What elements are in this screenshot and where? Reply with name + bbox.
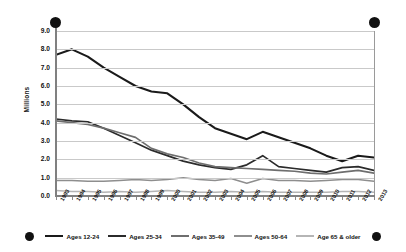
legend-swatch (108, 235, 126, 237)
legend-item[interactable]: Age 65 & older (296, 233, 360, 240)
y-axis-tick-label: 8.0 (24, 45, 50, 52)
x-axis-tick (104, 197, 105, 200)
gridline (56, 141, 374, 142)
y-axis-tick-label: 5.0 (24, 100, 50, 107)
x-axis-tick (263, 197, 264, 200)
legend-label: Age 65 & older (317, 233, 360, 240)
legend-item[interactable]: Ages 12-24 (45, 233, 99, 240)
x-axis-tick-label: 2013 (377, 188, 388, 202)
gridline (56, 49, 374, 50)
x-axis-tick (295, 197, 296, 200)
legend-label: Ages 12-24 (66, 233, 99, 240)
legend-swatch (234, 235, 252, 237)
x-axis-tick-labels: 1993199419951996199719981999200020012002… (56, 197, 374, 227)
chart-container: Millions 9.08.07.06.05.04.03.02.01.00.0 … (0, 0, 406, 252)
gridline (56, 86, 374, 87)
x-axis-tick (231, 197, 232, 200)
decorative-dot-top-left (50, 17, 61, 28)
x-axis-tick (167, 197, 168, 200)
plot-border-right (374, 31, 375, 196)
x-axis-tick (136, 197, 137, 200)
y-axis-tick-label: 7.0 (24, 64, 50, 71)
y-axis-tick-labels: 9.08.07.06.05.04.03.02.01.00.0 (22, 0, 50, 252)
x-axis-tick (120, 197, 121, 200)
x-axis-tick (326, 197, 327, 200)
x-axis-tick (279, 197, 280, 200)
y-axis-line (55, 22, 57, 196)
legend-item[interactable]: Ages 25-34 (108, 233, 162, 240)
decorative-dot-legend-right (372, 232, 381, 241)
x-axis-tick (199, 197, 200, 200)
x-axis-tick (151, 197, 152, 200)
x-axis-tick (56, 197, 57, 200)
gridline (56, 31, 374, 32)
x-axis-tick (342, 197, 343, 200)
y-axis-tick-label: 9.0 (24, 27, 50, 34)
legend-swatch (296, 235, 314, 237)
y-axis-tick-label: 4.0 (24, 119, 50, 126)
x-axis-tick (310, 197, 311, 200)
gridline (56, 68, 374, 69)
gridline (56, 178, 374, 179)
gridline (56, 159, 374, 160)
x-axis-tick (247, 197, 248, 200)
y-axis-tick-label: 2.0 (24, 155, 50, 162)
series-line (56, 191, 374, 193)
gridline (56, 123, 374, 124)
legend-items: Ages 12-24Ages 25-34Ages 35-49Ages 50-64… (45, 233, 360, 240)
legend-label: Ages 50-64 (255, 233, 288, 240)
x-axis-tick (88, 197, 89, 200)
gridline (56, 104, 374, 105)
x-axis-tick (374, 197, 375, 200)
y-axis-tick-label: 1.0 (24, 174, 50, 181)
legend-label: Ages 35-49 (192, 233, 225, 240)
y-axis-tick-label: 0.0 (24, 192, 50, 199)
legend-swatch (171, 235, 189, 237)
y-axis-tick-label: 3.0 (24, 137, 50, 144)
x-axis-tick (72, 197, 73, 200)
plot-area (56, 31, 374, 196)
decorative-dot-top-right (369, 17, 380, 28)
legend-label: Ages 25-34 (129, 233, 162, 240)
legend-item[interactable]: Ages 35-49 (171, 233, 225, 240)
x-axis-tick (358, 197, 359, 200)
chart-legend: Ages 12-24Ages 25-34Ages 35-49Ages 50-64… (0, 228, 406, 244)
legend-item[interactable]: Ages 50-64 (234, 233, 288, 240)
legend-swatch (45, 235, 63, 237)
x-axis-tick (183, 197, 184, 200)
series-lines (56, 31, 374, 196)
x-axis-tick (215, 197, 216, 200)
y-axis-tick-label: 6.0 (24, 82, 50, 89)
decorative-dot-legend-left (25, 232, 34, 241)
